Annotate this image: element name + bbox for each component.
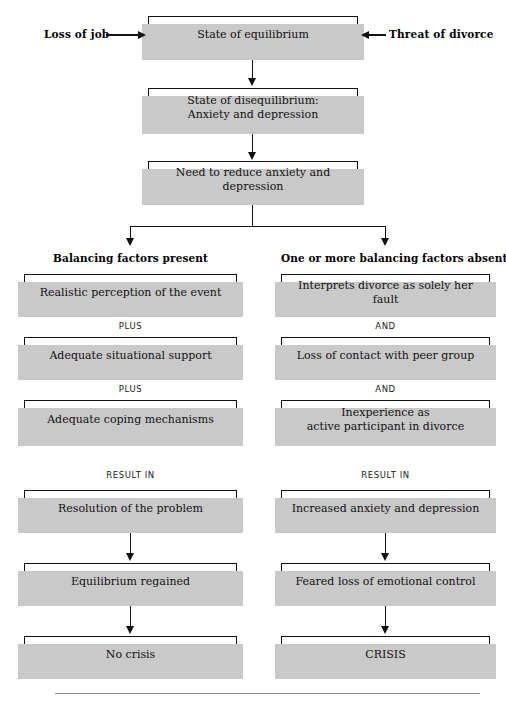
node-right-step-5: Feared loss of emotional control [281, 563, 490, 600]
node-left-step-4: Resolution of the problem [24, 490, 237, 527]
stressor-arrow-line-right [368, 34, 386, 35]
split-bar [130, 226, 386, 227]
connector-label-left-1: PLUS [24, 321, 237, 331]
node-right-step-2: Loss of contact with peer group [281, 337, 490, 374]
column-heading-balancing-present: Balancing factors present [24, 252, 237, 264]
node-label: Resolution of the problem [52, 502, 209, 516]
node-label-line2: active participant in divorce [307, 420, 464, 433]
node-need-to-reduce: Need to reduce anxiety and depression [148, 161, 358, 199]
stressor-label-left: Loss of job [44, 28, 109, 40]
node-label-line2: Anxiety and depression [188, 108, 318, 121]
flowchart-canvas: State of equilibrium Loss of job Threat … [0, 0, 506, 703]
node-label: Feared loss of emotional control [290, 575, 482, 589]
connector-label-left-2: PLUS [24, 384, 237, 394]
node-label-line1: Inexperience as [341, 406, 429, 419]
node-label: No crisis [100, 648, 162, 662]
node-label: Inexperience as active participant in di… [301, 406, 470, 434]
node-label: Loss of contact with peer group [291, 349, 481, 363]
connector-arrowhead-icon [381, 626, 389, 634]
connector-arrowhead-icon [126, 626, 134, 634]
connector-arrowhead-icon [248, 152, 256, 160]
stressor-arrowhead-left-icon [138, 31, 146, 39]
node-right-step-1: Interprets divorce as solely her fault [281, 274, 490, 311]
stressor-label-right: Threat of divorce [389, 28, 494, 40]
stressor-arrow-line-left [106, 34, 139, 35]
connector-arrowhead-icon [381, 553, 389, 561]
node-label: Equilibrium regained [65, 575, 196, 589]
split-arrowhead-left-icon [126, 238, 134, 246]
column-heading-balancing-absent: One or more balancing factors absent [281, 252, 490, 264]
node-label: Increased anxiety and depression [286, 502, 486, 516]
node-right-step-3: Inexperience as active participant in di… [281, 400, 490, 440]
split-arrowhead-right-icon [381, 238, 389, 246]
node-left-step-6: No crisis [24, 636, 237, 673]
node-right-step-4: Increased anxiety and depression [281, 490, 490, 527]
node-label: State of disequilibrium: Anxiety and dep… [181, 94, 325, 122]
node-state-of-equilibrium: State of equilibrium [148, 16, 358, 54]
stressor-arrowhead-right-icon [361, 31, 369, 39]
footer-divider [55, 693, 480, 694]
node-state-of-disequilibrium: State of disequilibrium: Anxiety and dep… [148, 88, 358, 128]
node-left-step-3: Adequate coping mechanisms [24, 400, 237, 440]
connector-arrowhead-icon [126, 553, 134, 561]
node-label: Adequate situational support [43, 349, 217, 363]
node-label: Adequate coping mechanisms [41, 413, 220, 427]
connector-label-left-3: RESULT IN [24, 470, 237, 480]
node-left-step-1: Realistic perception of the event [24, 274, 237, 311]
node-label-line1: State of disequilibrium: [187, 94, 319, 107]
node-label: Realistic perception of the event [34, 286, 228, 300]
node-label: Interprets divorce as solely her fault [282, 279, 489, 307]
connector-arrowhead-icon [248, 78, 256, 86]
node-label: CRISIS [359, 648, 411, 662]
node-right-step-6: CRISIS [281, 636, 490, 673]
node-left-step-2: Adequate situational support [24, 337, 237, 374]
connector-label-right-1: AND [281, 321, 490, 331]
node-label: State of equilibrium [191, 28, 315, 42]
connector-label-right-3: RESULT IN [281, 470, 490, 480]
node-label: Need to reduce anxiety and depression [149, 166, 357, 194]
node-left-step-5: Equilibrium regained [24, 563, 237, 600]
connector-label-right-2: AND [281, 384, 490, 394]
